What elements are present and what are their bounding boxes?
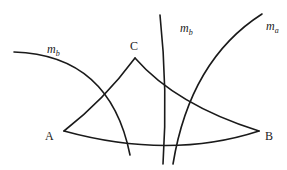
diagram-canvas: C A B mb mb ma bbox=[0, 0, 287, 170]
vertex-label-b: B bbox=[265, 129, 273, 143]
label-ma: ma bbox=[266, 19, 279, 35]
vertex-label-a: A bbox=[45, 129, 54, 143]
geometry-figure: C A B mb mb ma bbox=[0, 0, 287, 170]
vertex-label-c: C bbox=[130, 39, 138, 53]
label-mb-left: mb bbox=[47, 42, 60, 58]
median-mb-middle-curve bbox=[160, 15, 165, 164]
side-cb bbox=[135, 58, 259, 131]
side-ab bbox=[64, 131, 259, 146]
median-mb-left-curve bbox=[14, 52, 130, 155]
label-mb-middle: mb bbox=[180, 21, 193, 37]
side-ac bbox=[64, 58, 135, 131]
